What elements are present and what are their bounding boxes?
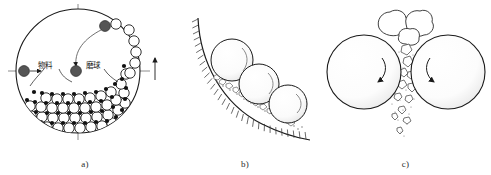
falling-ball-marker [100, 21, 111, 32]
panel-c-drawing [320, 0, 491, 175]
caption-panel-b: b) [170, 159, 320, 169]
figure-root: 物料 磨球 a) [0, 0, 491, 175]
label-material: 物料 [38, 60, 53, 70]
material-marker [19, 66, 30, 77]
panel-b: b) [170, 0, 320, 175]
impact-ball-marker [71, 66, 82, 77]
panel-a: 物料 磨球 a) [0, 0, 170, 175]
panel-b-drawing [170, 0, 320, 175]
caption-panel-a: a) [0, 159, 170, 169]
grinding-sphere-right [411, 35, 485, 109]
grinding-sphere-left [327, 35, 401, 109]
panel-c: c) [320, 0, 491, 175]
caption-panel-c: c) [320, 159, 491, 169]
feed-lumps [378, 10, 433, 45]
label-grinding-ball: 磨球 [86, 60, 101, 70]
panel-a-drawing: 物料 磨球 [0, 0, 170, 175]
